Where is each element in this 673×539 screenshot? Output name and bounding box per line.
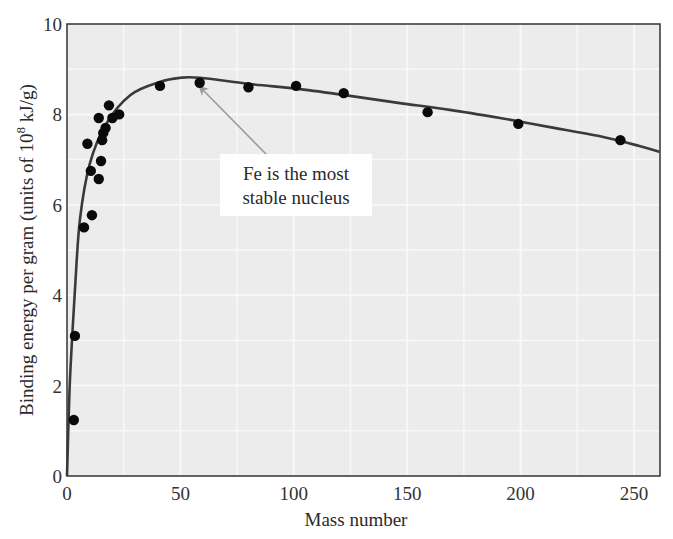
y-axis-tick-labels: 0246810 — [43, 14, 63, 487]
y-tick-label: 10 — [43, 14, 62, 35]
annotation-line-1: Fe is the most — [243, 163, 350, 184]
annotation-line-2: stable nucleus — [242, 187, 349, 208]
data-point — [94, 113, 104, 123]
data-point — [96, 156, 106, 166]
data-point — [513, 119, 523, 129]
data-point — [114, 109, 124, 119]
x-axis-title: Mass number — [305, 509, 409, 530]
x-tick-label: 50 — [171, 483, 190, 504]
x-tick-label: 100 — [280, 483, 309, 504]
x-tick-label: 0 — [62, 483, 72, 504]
data-point — [291, 81, 301, 91]
data-point — [422, 107, 432, 117]
x-tick-label: 200 — [506, 483, 535, 504]
data-point — [243, 82, 253, 92]
data-point — [194, 78, 204, 88]
data-point — [100, 123, 110, 133]
data-point — [86, 166, 96, 176]
data-point — [155, 81, 165, 91]
data-point — [104, 100, 114, 110]
y-tick-label: 6 — [53, 195, 63, 216]
x-tick-label: 150 — [393, 483, 422, 504]
y-tick-label: 4 — [53, 285, 63, 306]
y-tick-label: 8 — [53, 104, 63, 125]
x-axis-tick-labels: 050100150200250 — [62, 483, 648, 504]
data-point — [69, 415, 79, 425]
data-point — [70, 331, 80, 341]
chart: 0246810 050100150200250 Mass number Bind… — [0, 0, 673, 539]
data-point — [87, 210, 97, 220]
y-axis-title: Binding energy per gram (units of 108 kJ… — [13, 84, 38, 416]
x-tick-label: 250 — [620, 483, 649, 504]
data-point — [94, 174, 104, 184]
data-point — [82, 139, 92, 149]
y-tick-label: 2 — [53, 376, 63, 397]
data-point — [338, 88, 348, 98]
y-tick-label: 0 — [53, 466, 63, 487]
data-point — [615, 135, 625, 145]
data-point — [79, 222, 89, 232]
